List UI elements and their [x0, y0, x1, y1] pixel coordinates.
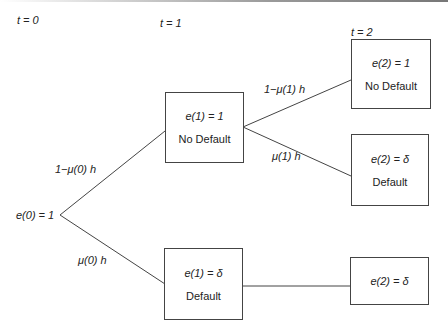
node-t1-no-default: e(1) = 1 No Default — [165, 92, 244, 163]
time-label-0: t = 0 — [17, 14, 39, 26]
node-value: e(2) = 1 — [372, 57, 410, 69]
node-t2-default-a: e(2) = δ Default — [351, 134, 429, 206]
node-status: No Default — [179, 133, 231, 145]
node-t2-default-b: e(2) = δ — [350, 257, 429, 305]
node-t1-default: e(1) = δ Default — [164, 248, 243, 320]
edge-label-root-down: μ(0) h — [78, 254, 107, 266]
node-value: e(2) = δ — [370, 275, 408, 287]
node-status: No Default — [365, 80, 417, 92]
edge-label-root-up: 1−μ(0) h — [55, 163, 96, 175]
edge-label-n1-down: μ(1) h — [272, 150, 301, 162]
node-value: e(1) = 1 — [185, 110, 223, 122]
node-t2-no-default: e(2) = 1 No Default — [351, 39, 431, 109]
edge-label-n1-up: 1−μ(1) h — [264, 83, 305, 95]
node-value: e(2) = δ — [371, 153, 409, 165]
time-label-1: t = 1 — [160, 17, 182, 29]
node-status: Default — [186, 290, 221, 302]
node-status: Default — [373, 176, 408, 188]
root-node-label: e(0) = 1 — [16, 209, 54, 221]
time-label-2: t = 2 — [351, 26, 373, 38]
node-value: e(1) = δ — [184, 267, 222, 279]
